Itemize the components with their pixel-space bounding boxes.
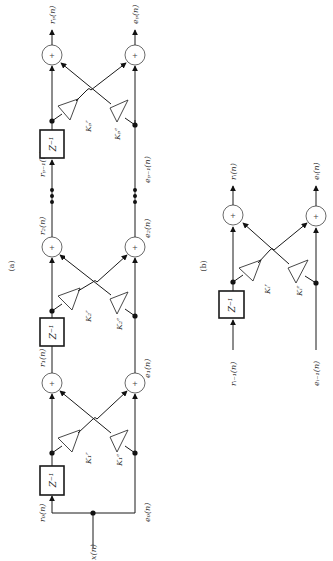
gain-k2e: K₂ᵉ bbox=[115, 318, 124, 331]
adder-ei-plus: + bbox=[313, 213, 319, 221]
e0-label: e₀(n) bbox=[143, 503, 152, 522]
stage-p: Z⁻¹ Kₚʳ Kₚᵉ + + rₚ(n) eₚ(n) bbox=[40, 5, 145, 158]
ep-label: eₚ(n) bbox=[131, 5, 140, 24]
gain-k1e: K₁ᵉ bbox=[115, 454, 124, 467]
panel-a: (a) x(n) r₀(n) e₀(n) Z⁻¹ bbox=[7, 5, 152, 560]
r1-label: r₁(n) bbox=[38, 349, 47, 367]
panel-b: (b) Z⁻¹ Kᵢʳ Kᵢᵉ + + rᵢ(n) eᵢ(n) rᵢ₋₁(n) … bbox=[199, 162, 326, 386]
ri1-label: rᵢ₋₁(n) bbox=[229, 362, 238, 386]
e2-label: e₂(n) bbox=[143, 219, 152, 238]
ellipsis-dot bbox=[50, 200, 54, 204]
cross-to-r1 bbox=[60, 391, 111, 433]
junction-dot bbox=[90, 510, 95, 515]
input-label: x(n) bbox=[89, 544, 98, 560]
gain-kir: Kᵢʳ bbox=[263, 283, 272, 295]
gain-kpe: Kₚᵉ bbox=[113, 128, 122, 141]
ei-label: eᵢ(n) bbox=[312, 162, 321, 180]
delay-label-b: Z⁻¹ bbox=[227, 298, 237, 314]
wire bbox=[52, 114, 62, 121]
r2-label: r₂(n) bbox=[38, 217, 47, 235]
ri-label: rᵢ(n) bbox=[229, 163, 238, 180]
wire bbox=[305, 276, 316, 283]
gain-triangle-k2e bbox=[110, 292, 128, 314]
adder-e1-plus: + bbox=[132, 380, 138, 388]
wire bbox=[125, 446, 135, 453]
adder-ep-plus: + bbox=[132, 52, 138, 60]
wire bbox=[233, 275, 243, 282]
adder-r2-plus: + bbox=[49, 244, 55, 252]
ei1-label: eᵢ₋₁(n) bbox=[312, 361, 321, 386]
gain-triangle-kir bbox=[239, 260, 261, 281]
gain-triangle-k1e bbox=[110, 430, 128, 452]
gain-kie: Kᵢᵉ bbox=[295, 285, 304, 297]
adder-ri-plus: + bbox=[230, 212, 236, 220]
gain-kpr: Kₚʳ bbox=[84, 120, 93, 133]
ellipsis-dot bbox=[133, 194, 137, 198]
ellipsis-dot bbox=[50, 188, 54, 192]
delay-label-p: Z⁻¹ bbox=[48, 137, 58, 153]
wire bbox=[125, 309, 135, 316]
gain-triangle-kpr bbox=[58, 99, 78, 120]
ep1-label: eₚ₋₁(n) bbox=[143, 156, 152, 183]
adder-rp-plus: + bbox=[49, 52, 55, 60]
adder-e2-plus: + bbox=[132, 244, 138, 252]
wire bbox=[52, 446, 62, 453]
ellipsis-dot bbox=[133, 188, 137, 192]
gain-k2r: K₂ʳ bbox=[84, 310, 93, 323]
rp-label: rₚ(n) bbox=[48, 6, 57, 24]
delay-label-2: Z⁻¹ bbox=[48, 325, 58, 341]
ellipsis-dot bbox=[50, 194, 54, 198]
cross-to-r2 bbox=[60, 255, 111, 295]
lattice-filter-figure: (a) x(n) r₀(n) e₀(n) Z⁻¹ bbox=[0, 0, 333, 561]
panel-b-caption: (b) bbox=[199, 260, 208, 271]
e1-label: e₁(n) bbox=[143, 359, 152, 378]
ellipsis-dot bbox=[133, 200, 137, 204]
r0-label: r₀(n) bbox=[38, 504, 47, 522]
gain-k1r: K₁ʳ bbox=[84, 452, 93, 465]
gain-triangle-k1r bbox=[58, 430, 80, 452]
delay-label-1: Z⁻¹ bbox=[48, 473, 58, 489]
cross-to-rp bbox=[61, 63, 111, 104]
panel-a-caption: (a) bbox=[7, 260, 16, 271]
cross-to-e2 bbox=[78, 255, 127, 291]
wire bbox=[125, 118, 135, 125]
gain-triangle-k2r bbox=[58, 288, 80, 310]
stage-2: Z⁻¹ K₂ʳ K₂ᵉ + + r₂(n) e₂(n) bbox=[38, 217, 152, 373]
gain-triangle-kie bbox=[288, 260, 308, 283]
adder-r1-plus: + bbox=[49, 380, 55, 388]
wire bbox=[52, 304, 62, 311]
